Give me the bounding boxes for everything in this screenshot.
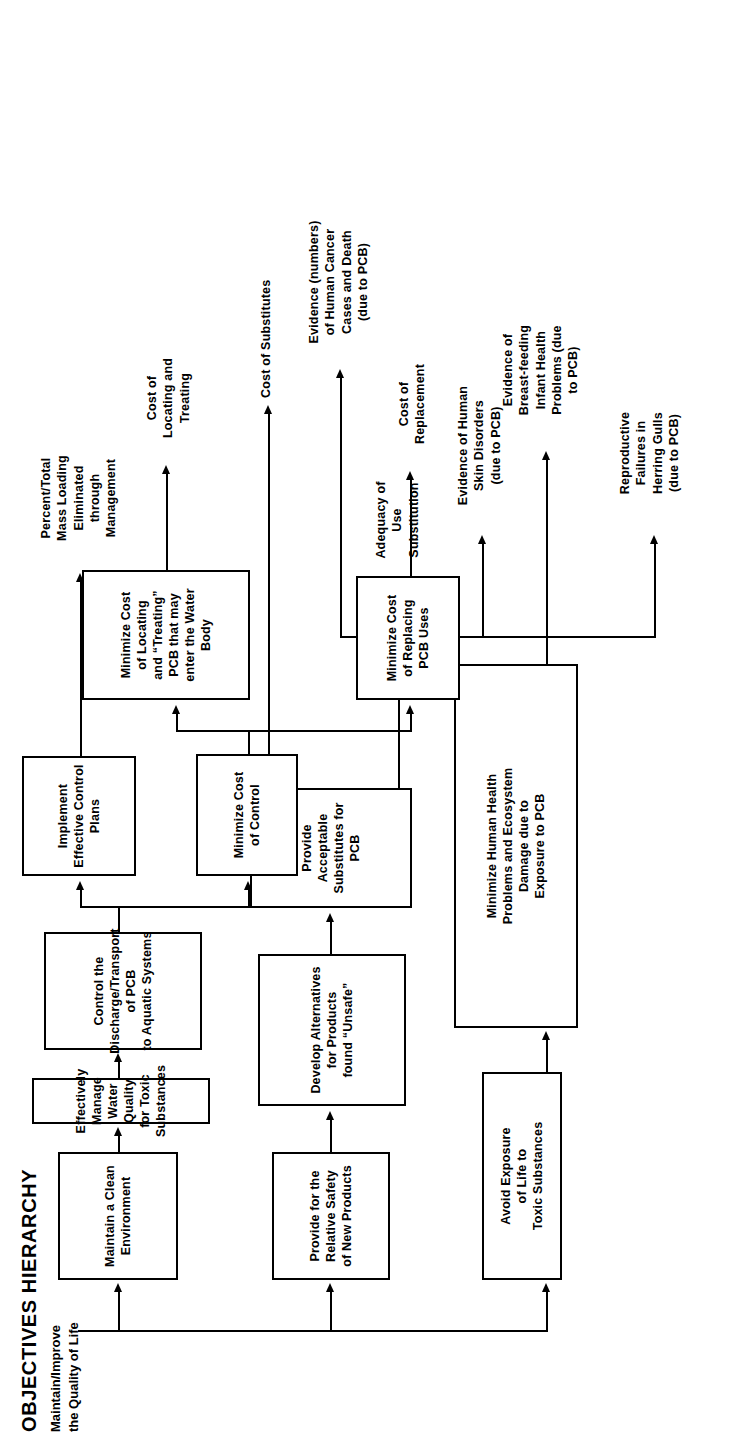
node-relative-safety[interactable]: Provide for the Relative Safety of New P… bbox=[272, 1152, 390, 1280]
node-develop-alternatives-label: Develop Alternatives for Products found … bbox=[308, 966, 356, 1093]
node-minimize-cost-locating-label: Minimize Cost of Locating and “Treating”… bbox=[118, 588, 214, 682]
stub-control-discharge-out bbox=[118, 906, 120, 932]
arrow-avoid-to-minimize-health bbox=[542, 1031, 550, 1040]
arrow-to-minimize-cost-control bbox=[244, 881, 252, 890]
link-to-implement-plans bbox=[80, 888, 82, 908]
node-implement-plans-label: Implement Effective Control Plans bbox=[55, 764, 103, 867]
page-title: OBJECTIVES HIERARCHY bbox=[18, 1169, 41, 1432]
measure-skin-disorders: Evidence of Human Skin Disorders (due to… bbox=[455, 363, 504, 528]
node-control-discharge-label: Control the Discharge/Transport of PCB t… bbox=[91, 928, 155, 1053]
link-to-cost-locating-treating bbox=[166, 472, 168, 570]
node-clean-environment-label: Maintain a Clean Environment bbox=[102, 1165, 134, 1267]
measure-cost-locating-treating: Cost of Locating and Treating bbox=[144, 338, 193, 458]
arrow-to-cost-replacement bbox=[406, 471, 414, 480]
arrow-to-skin-disorders bbox=[478, 535, 486, 544]
stub-minimize-cost-out bbox=[248, 730, 250, 754]
arrow-to-avoid-exposure bbox=[542, 1283, 550, 1292]
arrow-to-minimize-cost-locating bbox=[172, 705, 180, 714]
branch-line-clean-environment bbox=[118, 1290, 120, 1332]
node-minimize-cost-control-label: Minimize Cost of Control bbox=[231, 772, 263, 859]
link-to-minimize-cost-locating bbox=[176, 712, 178, 732]
arrow-to-implement-plans bbox=[76, 881, 84, 890]
split-spine-minimize-cost bbox=[176, 730, 412, 732]
link-to-minimize-cost-replacing bbox=[410, 712, 412, 732]
arrow-to-human-cancer bbox=[336, 369, 344, 378]
measure-percent-mass-loading: Percent/Total Mass Loading Eliminated th… bbox=[38, 430, 119, 566]
node-provide-substitutes-label: Provide Acceptable Substitutes for PCB bbox=[299, 793, 363, 903]
branch-line-avoid-exposure bbox=[546, 1290, 548, 1332]
arrow-to-clean-environment bbox=[114, 1283, 122, 1292]
node-minimize-cost-control[interactable]: Minimize Cost of Control bbox=[196, 754, 298, 876]
link-avoid-to-minimize-health bbox=[546, 1038, 548, 1072]
link-to-reproductive-failures bbox=[654, 542, 656, 638]
node-manage-water-label: Effectively Manage Water Quality for Tox… bbox=[73, 1065, 169, 1137]
link-to-skin-disorders bbox=[482, 542, 484, 638]
link-water-to-control-discharge bbox=[118, 1060, 120, 1078]
node-manage-water[interactable]: Effectively Manage Water Quality for Tox… bbox=[32, 1078, 210, 1124]
link-alternatives-to-substitutes bbox=[330, 920, 332, 954]
node-minimize-cost-replacing[interactable]: Minimize Cost of Replacing PCB Uses bbox=[356, 576, 460, 700]
link-to-cost-replacement bbox=[410, 478, 412, 576]
root-trunk-vertical bbox=[78, 1330, 548, 1332]
arrow-alternatives-to-substitutes bbox=[326, 913, 334, 922]
branch-line-relative-safety bbox=[330, 1290, 332, 1332]
node-implement-plans[interactable]: Implement Effective Control Plans bbox=[22, 756, 136, 876]
node-avoid-exposure[interactable]: Avoid Exposure of Life to Toxic Substanc… bbox=[482, 1072, 562, 1280]
link-to-breastfeeding bbox=[546, 458, 548, 664]
link-to-minimize-cost-control bbox=[248, 888, 250, 908]
arrow-to-relative-safety bbox=[326, 1283, 334, 1292]
node-relative-safety-label: Provide for the Relative Safety of New P… bbox=[307, 1165, 355, 1267]
node-clean-environment[interactable]: Maintain a Clean Environment bbox=[58, 1152, 178, 1280]
measure-adequacy-substitution: Adequacy of Use Substitution bbox=[373, 460, 422, 580]
arrow-to-breastfeeding bbox=[542, 451, 550, 460]
arrow-to-minimize-cost-replacing bbox=[406, 705, 414, 714]
measure-breastfeeding: Evidence of Breast-feeding Infant Health… bbox=[500, 296, 581, 444]
node-develop-alternatives[interactable]: Develop Alternatives for Products found … bbox=[258, 954, 406, 1106]
arrow-water-to-control-discharge bbox=[114, 1053, 122, 1062]
node-minimize-health-label: Minimize Human Health Problems and Ecosy… bbox=[484, 768, 548, 925]
arrow-to-reproductive-failures bbox=[650, 535, 658, 544]
drop-to-reproductive-failures bbox=[546, 636, 656, 638]
objectives-hierarchy-diagram: OBJECTIVES HIERARCHY Maintain/Improve th… bbox=[0, 0, 755, 1450]
node-minimize-cost-replacing-label: Minimize Cost of Replacing PCB Uses bbox=[384, 595, 432, 682]
measure-cost-substitutes: Cost of Substitutes bbox=[258, 238, 274, 398]
measure-reproductive-failures: Reproductive Failures in Herring Gulls (… bbox=[617, 378, 682, 528]
node-avoid-exposure-label: Avoid Exposure of Life to Toxic Substanc… bbox=[498, 1122, 546, 1231]
arrow-safety-to-alternatives bbox=[326, 1111, 334, 1120]
node-minimize-health[interactable]: Minimize Human Health Problems and Ecosy… bbox=[454, 664, 578, 1028]
measure-human-cancer: Evidence (numbers) of Human Cancer Cases… bbox=[306, 202, 371, 362]
node-minimize-cost-locating[interactable]: Minimize Cost of Locating and “Treating”… bbox=[82, 570, 250, 700]
measure-cost-replacement: Cost of Replacement bbox=[396, 344, 429, 464]
split-spine-control bbox=[80, 906, 250, 908]
link-safety-to-alternatives bbox=[330, 1118, 332, 1152]
arrow-to-cost-locating-treating bbox=[162, 465, 170, 474]
node-control-discharge[interactable]: Control the Discharge/Transport of PCB t… bbox=[44, 932, 202, 1050]
arrow-to-cost-substitutes bbox=[264, 405, 272, 414]
link-to-human-cancer bbox=[340, 376, 342, 638]
